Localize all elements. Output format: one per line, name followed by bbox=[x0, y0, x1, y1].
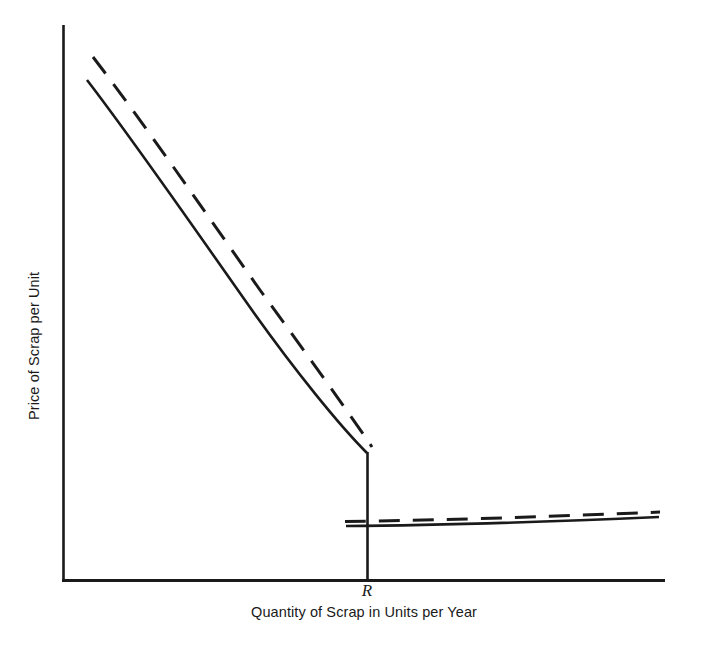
figure-caption bbox=[63, 644, 703, 655]
economics-figure: Price of Scrap per Unit R Quantity of Sc… bbox=[0, 0, 725, 655]
x-tick-label-R: R bbox=[347, 581, 387, 601]
chart-canvas bbox=[0, 0, 725, 655]
y-axis-label: Price of Scrap per Unit bbox=[26, 60, 48, 420]
x-axis-label: Quantity of Scrap in Units per Year bbox=[63, 604, 665, 620]
solid-curve-downward-branch bbox=[87, 80, 367, 453]
dashed-curve-downward-branch bbox=[93, 57, 372, 447]
